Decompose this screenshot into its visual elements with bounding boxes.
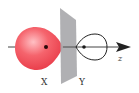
lobe-x [15, 27, 63, 70]
label-z-axis: z [117, 54, 123, 63]
nucleus-dot-y [82, 45, 86, 49]
label-y: Y [78, 77, 86, 87]
nucleus-dot-x [44, 45, 48, 49]
nodal-plane [60, 8, 77, 84]
label-x: X [41, 77, 48, 87]
orbital-diagram: X Y z [0, 0, 139, 93]
